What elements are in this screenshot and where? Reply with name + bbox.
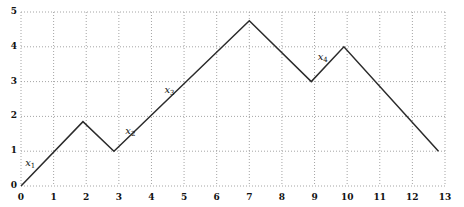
x-axis-tick-11: 11 xyxy=(370,193,390,202)
y-axis-tick-4: 4 xyxy=(4,42,17,51)
segment-label-x1: x1 xyxy=(25,158,35,168)
x-axis-tick-4: 4 xyxy=(141,193,161,202)
y-axis-tick-3: 3 xyxy=(4,77,17,86)
vertical-gridlines xyxy=(21,12,445,186)
x-axis-tick-2: 2 xyxy=(76,193,96,202)
y-axis-tick-1: 1 xyxy=(4,146,17,155)
x-axis-tick-10: 10 xyxy=(337,193,357,202)
chart-container: 543210 012345678910111213 x1x2x3x4 xyxy=(0,0,464,207)
y-axis-tick-0: 0 xyxy=(4,181,17,190)
horizontal-gridlines xyxy=(21,12,445,186)
segment-label-x2: x2 xyxy=(125,126,135,136)
segment-label-x3: x3 xyxy=(164,85,174,95)
segment-label-x4: x4 xyxy=(318,52,328,62)
x-axis-tick-8: 8 xyxy=(272,193,292,202)
x-axis-tick-0: 0 xyxy=(11,193,31,202)
x-axis-tick-9: 9 xyxy=(305,193,325,202)
x-axis-tick-6: 6 xyxy=(207,193,227,202)
x-axis-tick-12: 12 xyxy=(402,193,422,202)
x-axis-tick-7: 7 xyxy=(239,193,259,202)
x-axis-tick-1: 1 xyxy=(44,193,64,202)
x-axis-tick-3: 3 xyxy=(109,193,129,202)
x-axis-tick-13: 13 xyxy=(435,193,455,202)
chart-plot-area xyxy=(0,0,464,207)
y-axis-tick-5: 5 xyxy=(4,7,17,16)
x-axis-tick-5: 5 xyxy=(174,193,194,202)
y-axis-tick-2: 2 xyxy=(4,111,17,120)
data-series-line xyxy=(21,21,438,186)
